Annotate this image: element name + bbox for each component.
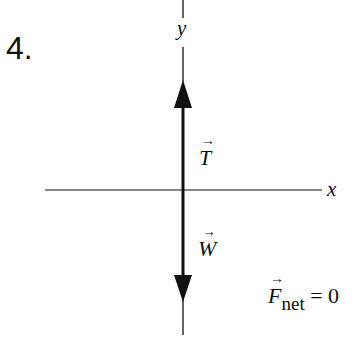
net-force-equation: → Fnet = 0 (268, 283, 339, 309)
weight-arrowhead-icon (174, 275, 192, 302)
vector-arrow-icon: → (201, 133, 215, 149)
tension-arrowhead-icon (174, 80, 192, 108)
weight-label: → W (198, 236, 216, 262)
vector-arrow-icon: → (202, 224, 216, 240)
tension-label: → T (199, 145, 211, 171)
y-axis-label: y (177, 16, 186, 41)
x-axis-label: x (327, 177, 336, 202)
vector-arrow-icon: → (270, 271, 284, 287)
